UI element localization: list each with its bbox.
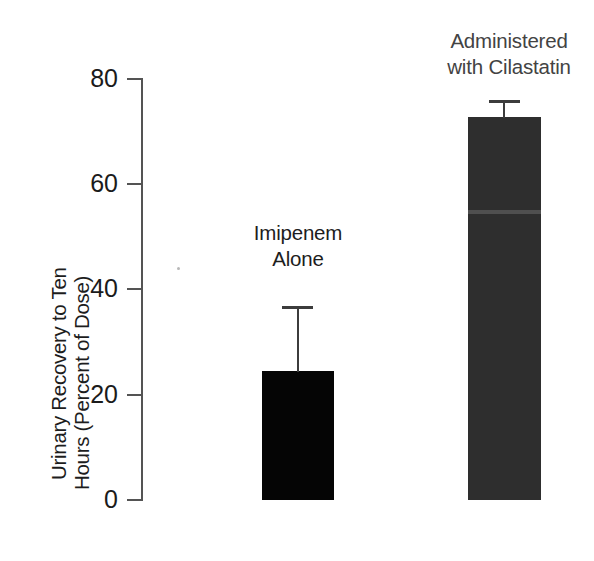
bar-label-line-2: with Cilastatin xyxy=(424,54,594,80)
bar-label-administered-with-cilastatin: Administered with Cilastatin xyxy=(424,28,594,80)
y-tick-label-20-wrap: 20 xyxy=(15,382,118,408)
bar-label-line-2: Alone xyxy=(218,246,378,272)
bar-administered-with-cilastatin xyxy=(468,117,541,500)
error-bar-cap-administered-with-cilastatin xyxy=(489,100,520,103)
y-tick-0 xyxy=(127,499,142,501)
error-bar-stem-administered-with-cilastatin xyxy=(503,101,505,118)
y-tick-60 xyxy=(127,183,142,185)
bar-label-line-1: Administered xyxy=(424,28,594,54)
error-bar-stem-imipenem-alone xyxy=(297,307,299,372)
error-bar-cap-imipenem-alone xyxy=(282,306,313,309)
y-tick-20 xyxy=(127,394,142,396)
scan-artifact-speck xyxy=(177,267,180,270)
y-tick-label-60: 60 xyxy=(18,171,118,196)
y-tick-40 xyxy=(127,288,142,290)
bar-scanline-artifact xyxy=(468,210,541,214)
y-tick-label-60-wrap: 60 xyxy=(15,171,118,197)
y-tick-label-40: 40 xyxy=(18,276,118,301)
y-tick-label-80: 80 xyxy=(18,66,118,91)
bar-chart: Urinary Recovery to Ten Hours (Percent o… xyxy=(0,0,594,561)
y-tick-label-0-wrap: 0 xyxy=(15,487,118,513)
bar-label-line-1: Imipenem xyxy=(218,220,378,246)
y-tick-label-80-wrap: 80 xyxy=(15,66,118,92)
y-tick-label-0: 0 xyxy=(18,487,118,512)
y-tick-80 xyxy=(127,78,142,80)
bar-imipenem-alone xyxy=(262,371,334,500)
y-tick-label-20: 20 xyxy=(18,382,118,407)
bar-label-imipenem-alone: Imipenem Alone xyxy=(218,220,378,272)
y-tick-label-40-wrap: 40 xyxy=(15,276,118,302)
